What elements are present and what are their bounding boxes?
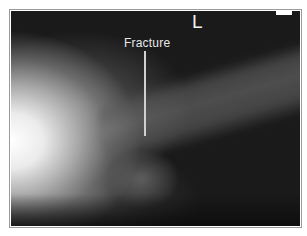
fracture-pointer-line [144, 51, 146, 136]
side-marker: L [192, 12, 203, 31]
corner-tab-mark [276, 11, 292, 15]
fracture-label: Fracture [124, 36, 170, 50]
